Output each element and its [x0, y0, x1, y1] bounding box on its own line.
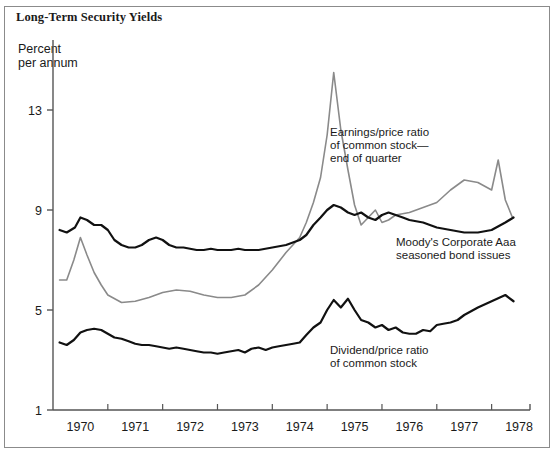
figure-container: Long-Term Security Yields Percent per an…	[0, 0, 555, 454]
x-tick-label: 1971	[121, 420, 149, 434]
y-tick-label: 9	[35, 204, 42, 218]
annotation-moodys-corporate-aaa: Moody's Corporate Aaaseasoned bond issue…	[396, 236, 516, 261]
annotation-earnings-price-ratio: Earnings/price ratioof common stock—end …	[330, 126, 429, 164]
x-tick-label: 1970	[67, 420, 95, 434]
annotation-line: of common stock—	[330, 139, 429, 151]
x-tick-label: 1976	[395, 420, 423, 434]
x-axis-ticks: 197019711972197319741975197619771978	[67, 404, 533, 434]
annotation-line: seasoned bond issues	[396, 249, 511, 261]
series-line-2	[60, 295, 514, 354]
y-tick-label: 1	[35, 404, 42, 418]
x-tick-label: 1972	[176, 420, 204, 434]
annotation-line: end of quarter	[330, 152, 402, 164]
axes	[53, 40, 530, 410]
x-tick-label: 1977	[450, 420, 478, 434]
x-tick-label: 1973	[231, 420, 259, 434]
series-line-0	[60, 73, 513, 303]
annotation-line: Moody's Corporate Aaa	[396, 236, 516, 248]
annotation-line: Dividend/price ratio	[330, 344, 428, 356]
annotation-line: of common stock	[330, 357, 417, 369]
line-chart-plot: 1591319701971197219731974197519761977197…	[0, 0, 555, 454]
x-tick-label: 1978	[505, 420, 533, 434]
y-axis-ticks: 15913	[28, 104, 53, 418]
annotation-line: Earnings/price ratio	[330, 126, 429, 138]
x-tick-label: 1974	[286, 420, 314, 434]
y-tick-label: 5	[35, 304, 42, 318]
annotation-dividend-price-ratio: Dividend/price ratioof common stock	[330, 344, 428, 369]
y-tick-label: 13	[28, 104, 42, 118]
x-tick-label: 1975	[341, 420, 369, 434]
